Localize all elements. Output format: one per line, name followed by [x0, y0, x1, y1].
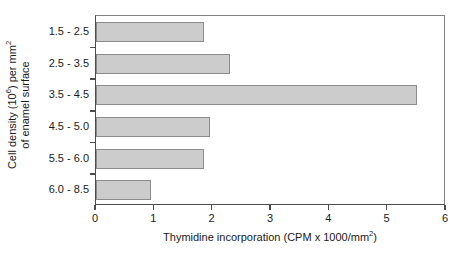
y-axis-tick-label: 4.5 - 5.0	[49, 120, 89, 132]
plot-area	[95, 15, 445, 205]
x-axis-tick-label: 3	[267, 212, 273, 224]
y-axis-title-line-1: Cell density (106) per mm2	[2, 41, 19, 169]
x-axis-tick-label: 0	[92, 212, 98, 224]
bar	[96, 117, 210, 137]
y-axis-tick-label: 3.5 - 4.5	[49, 88, 89, 100]
y-axis-tick-label: 1.5 - 2.5	[49, 25, 89, 37]
x-axis-tick-label: 4	[325, 212, 331, 224]
chart-figure: Cell density (106) per mm2 of enamel sur…	[0, 0, 458, 259]
x-axis-title-exponent-2: 2	[369, 229, 373, 238]
x-axis-tick	[153, 205, 155, 210]
bar	[96, 180, 151, 200]
x-axis-tick	[94, 205, 96, 210]
y-axis-tick-labels: 1.5 - 2.52.5 - 3.53.5 - 4.54.5 - 5.05.5 …	[34, 15, 92, 205]
x-axis-tick-label: 2	[209, 212, 215, 224]
y-axis-title-exponent-6: 6	[4, 89, 13, 93]
x-axis-tick	[386, 205, 388, 210]
y-axis-tick-label: 6.0 - 8.5	[49, 183, 89, 195]
bar	[96, 22, 204, 42]
bar	[96, 85, 417, 105]
y-axis-tick-label: 2.5 - 3.5	[49, 57, 89, 69]
x-axis-tick	[211, 205, 213, 210]
x-axis-tick	[269, 205, 271, 210]
bar	[96, 149, 204, 169]
y-axis-title-exponent-2: 2	[4, 41, 13, 45]
y-axis-title: Cell density (106) per mm2 of enamel sur…	[0, 0, 34, 210]
x-axis-tick	[328, 205, 330, 210]
x-axis-title-text: Thymidine incorporation (CPM x 1000/mm2)	[163, 231, 377, 243]
x-axis-title: Thymidine incorporation (CPM x 1000/mm2)	[95, 229, 445, 243]
x-axis-tick-label: 5	[384, 212, 390, 224]
x-axis-tick	[444, 205, 446, 210]
y-axis-title-line-2: of enamel surface	[19, 41, 32, 169]
x-axis-tick-label: 6	[442, 212, 448, 224]
y-axis-title-text: Cell density (106) per mm2 of enamel sur…	[2, 41, 32, 169]
x-axis-tick-label: 1	[150, 212, 156, 224]
y-axis-tick-label: 5.5 - 6.0	[49, 152, 89, 164]
bar	[96, 54, 230, 74]
